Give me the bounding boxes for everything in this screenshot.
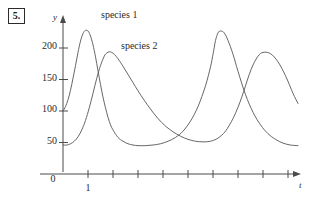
y-tick-label-150: 150 — [42, 72, 57, 83]
axes-group — [40, 15, 301, 177]
x-axis-arrowhead — [293, 171, 301, 177]
curve-species-1 — [63, 30, 298, 146]
y-axis-name-label: y — [52, 12, 57, 22]
y-tick-label-100: 100 — [42, 103, 57, 114]
curve-species-2 — [63, 52, 298, 145]
figure-container: 5. y — [0, 0, 318, 205]
x-axis-name-label: t — [299, 180, 302, 190]
plot-svg: y t 200 150 100 50 0 1 species 1 species… — [0, 0, 318, 205]
y-tick-label-200: 200 — [42, 40, 57, 51]
curves-group — [63, 30, 298, 146]
x-tick-label-1: 1 — [86, 182, 91, 193]
y-axis-arrowhead — [60, 15, 66, 23]
series-label-species-2: species 2 — [121, 40, 157, 51]
labels-group: y t 200 150 100 50 0 1 species 1 species… — [42, 9, 302, 193]
y-tick-label-50: 50 — [47, 135, 57, 146]
origin-label: 0 — [51, 173, 56, 184]
series-label-species-1: species 1 — [101, 9, 137, 20]
